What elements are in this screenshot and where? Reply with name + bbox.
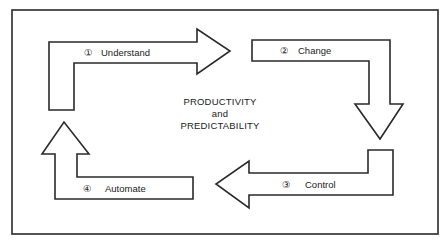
step-4-number: ④	[83, 183, 92, 194]
step-3-number: ③	[282, 179, 291, 190]
center-text-line2: and	[212, 108, 228, 119]
step-2-label: Change	[298, 45, 331, 56]
step-1-number: ①	[84, 47, 93, 58]
step-1-label: Understand	[101, 47, 150, 58]
cycle-diagram: ① Understand ② Change ③ Control ④ Automa…	[0, 0, 445, 242]
center-text-line1: PRODUCTIVITY	[183, 96, 257, 107]
center-text-line3: PREDICTABILITY	[180, 120, 260, 131]
step-2-number: ②	[280, 45, 289, 56]
step-3-label: Control	[305, 179, 336, 190]
step-4-label: Automate	[105, 183, 146, 194]
